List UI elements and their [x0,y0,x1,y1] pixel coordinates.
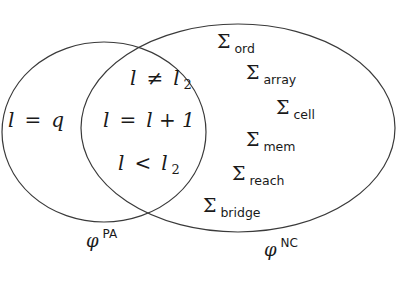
left-only-formula: l = q [8,108,64,132]
sigma-reach: Σ reach [232,162,284,188]
label-phi-pa: φ PA [86,227,118,251]
sigma-ord: Σ ord [217,30,255,56]
sigma-array: Σ array [246,61,297,87]
label-phi-nc: φ NC [264,236,298,260]
intersection-formula-lt: l < l 2 [118,151,180,177]
intersection-formula-neq: l ≠ l 2 [130,66,192,92]
venn-diagram: l = q l ≠ l 2 l = l + 1 l < l 2 Σ ord Σ … [0,0,396,284]
sigma-cell: Σ cell [276,96,315,122]
sigma-bridge: Σ bridge [203,194,261,220]
sigma-mem: Σ mem [246,128,295,154]
intersection-formula-incr: l = l + 1 [103,108,195,132]
